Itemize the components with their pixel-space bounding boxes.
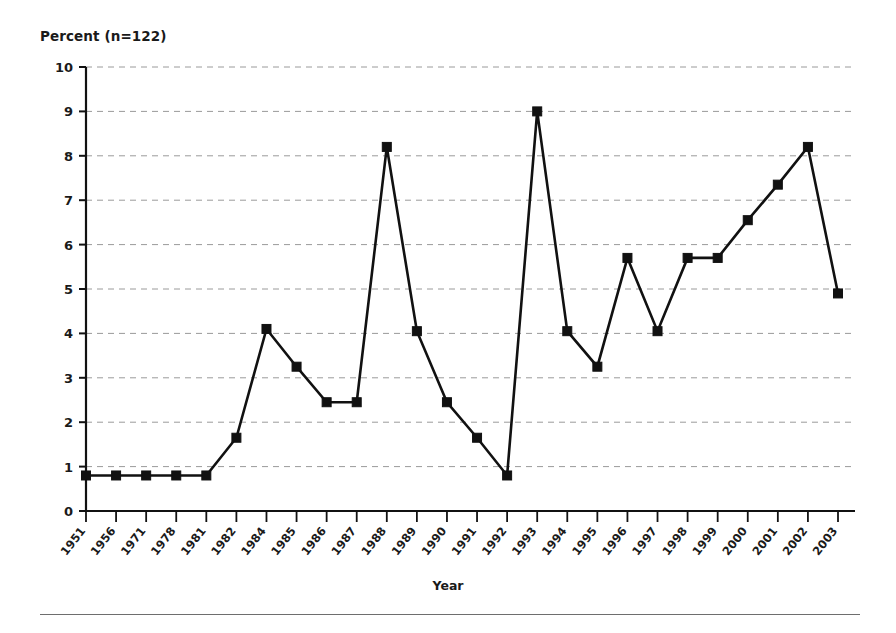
data-point-marker [593, 362, 602, 371]
x-tick-label: 1994 [539, 524, 570, 558]
data-point-marker [382, 142, 391, 151]
y-tick-label: 4 [64, 326, 73, 341]
y-tick-label: 5 [64, 282, 73, 297]
data-point-marker [352, 398, 361, 407]
data-point-marker [412, 327, 421, 336]
data-point-marker [142, 471, 151, 480]
data-point-marker [292, 362, 301, 371]
y-tick-label: 3 [64, 371, 73, 386]
y-ticks-group: 012345678910 [55, 60, 86, 519]
data-point-marker [623, 253, 632, 262]
x-ticks-group: 1951195619711978198119821984198519861987… [58, 511, 841, 558]
data-point-marker [563, 327, 572, 336]
x-tick-label: 1997 [629, 524, 660, 558]
y-tick-label: 7 [64, 193, 73, 208]
x-tick-label: 1993 [509, 524, 540, 558]
y-tick-label: 2 [64, 415, 73, 430]
data-point-marker [322, 398, 331, 407]
x-axis-title: Year [0, 578, 896, 593]
y-tick-label: 10 [55, 60, 73, 75]
x-tick-label: 1988 [358, 524, 389, 558]
data-point-marker [834, 289, 843, 298]
data-point-marker [683, 253, 692, 262]
line-chart-plot: 012345678910 195119561971197819811982198… [0, 0, 896, 575]
data-point-marker [442, 398, 451, 407]
y-tick-label: 8 [64, 149, 73, 164]
data-point-marker [232, 433, 241, 442]
x-tick-label: 1996 [599, 524, 630, 558]
x-tick-label: 1971 [118, 524, 149, 558]
data-point-marker [82, 471, 91, 480]
x-tick-label: 1982 [208, 524, 239, 558]
data-point-marker [773, 180, 782, 189]
x-tick-label: 2000 [719, 524, 750, 558]
data-point-marker [112, 471, 121, 480]
y-tick-label: 9 [64, 104, 73, 119]
data-points-group [82, 107, 843, 480]
data-line-group [86, 111, 838, 475]
x-tick-label: 1985 [268, 524, 299, 558]
data-point-marker [743, 216, 752, 225]
data-point-marker [503, 471, 512, 480]
x-tick-label: 1956 [88, 524, 119, 558]
x-tick-label: 1995 [569, 524, 600, 558]
data-point-marker [803, 142, 812, 151]
x-tick-label: 1951 [58, 524, 89, 558]
x-tick-label: 1992 [479, 524, 510, 558]
x-tick-label: 1990 [419, 524, 450, 558]
data-point-marker [713, 253, 722, 262]
data-point-marker [653, 327, 662, 336]
x-tick-label: 1989 [389, 524, 420, 558]
x-tick-label: 1999 [689, 524, 720, 558]
x-tick-label: 1991 [449, 524, 480, 558]
x-tick-label: 2003 [810, 524, 841, 558]
y-tick-label: 6 [64, 238, 73, 253]
y-axis-title: Percent (n=122) [40, 28, 167, 44]
footer-divider [40, 614, 860, 615]
data-point-marker [533, 107, 542, 116]
x-tick-label: 1987 [328, 524, 359, 558]
x-tick-label: 1978 [148, 524, 179, 558]
gridlines-group [86, 67, 855, 467]
y-tick-label: 0 [64, 504, 73, 519]
x-tick-label: 2002 [780, 524, 811, 558]
data-line [86, 111, 838, 475]
data-point-marker [473, 433, 482, 442]
x-tick-label: 1984 [238, 524, 269, 558]
x-tick-label: 1981 [178, 524, 209, 558]
x-tick-label: 1998 [659, 524, 690, 558]
x-tick-label: 2001 [749, 524, 780, 558]
data-point-marker [172, 471, 181, 480]
y-tick-label: 1 [64, 460, 73, 475]
x-tick-label: 1986 [298, 524, 329, 558]
chart-figure: Percent (n=122) 012345678910 19511956197… [0, 0, 896, 633]
data-point-marker [202, 471, 211, 480]
data-point-marker [262, 324, 271, 333]
